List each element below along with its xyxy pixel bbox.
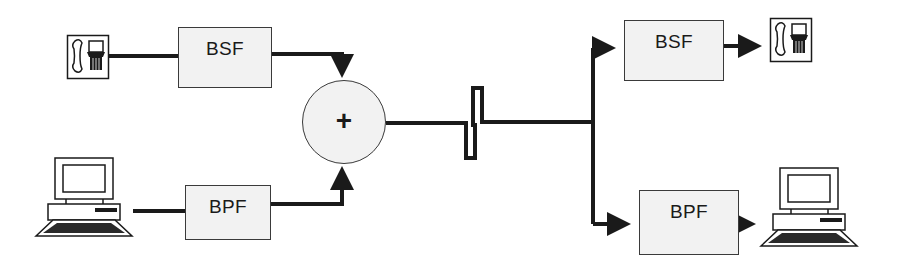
summing-junction: + <box>302 80 386 164</box>
computer-icon <box>761 168 857 246</box>
tx-bpf-box: BPF <box>185 185 271 240</box>
tx-bpf-label: BPF <box>209 196 247 218</box>
rx-bsf-box: BSF <box>624 20 724 81</box>
wire-bpf-to-summer <box>270 170 342 204</box>
telephone-icon <box>68 36 109 79</box>
tx-bsf-box: BSF <box>178 27 272 88</box>
plus-icon: + <box>336 107 352 135</box>
telephone-data-multiplexing-diagram: BSF BPF BSF BPF + <box>0 0 897 265</box>
tx-bsf-label: BSF <box>206 38 244 60</box>
telephone-icon <box>771 19 812 62</box>
computer-icon <box>36 158 132 236</box>
rx-bsf-label: BSF <box>655 31 693 53</box>
connection-lines <box>0 0 897 265</box>
rx-bpf-box: BPF <box>639 190 739 255</box>
wire-bsf-to-summer <box>271 54 342 74</box>
wire-break-to-splitter <box>473 88 593 127</box>
wire-summer-to-break <box>386 123 475 158</box>
rx-bpf-label: BPF <box>670 201 708 223</box>
